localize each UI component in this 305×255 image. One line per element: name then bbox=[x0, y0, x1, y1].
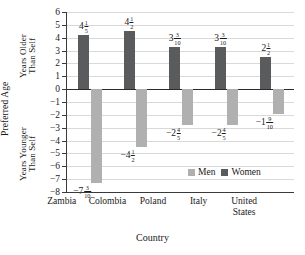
y-axis-tick bbox=[62, 166, 67, 167]
value-label-men: −1910 bbox=[256, 116, 274, 130]
value-label-women: 3310 bbox=[169, 32, 181, 46]
value-label-men: −412 bbox=[120, 149, 134, 163]
y-axis-tick-label: 3 bbox=[55, 46, 60, 56]
y-axis-tick bbox=[62, 76, 67, 77]
y-axis-tick bbox=[62, 179, 67, 180]
x-axis-line bbox=[66, 192, 294, 193]
gridline bbox=[67, 51, 294, 52]
y-axis-tick bbox=[62, 115, 67, 116]
legend-item-men: Men bbox=[188, 167, 215, 177]
y-axis-tick-label: 1 bbox=[55, 71, 60, 81]
y-axis-tick bbox=[62, 153, 67, 154]
bar-men bbox=[136, 89, 147, 147]
outer-y-axis-title: Preferred Age bbox=[1, 34, 11, 184]
y-axis-tick-label: −7 bbox=[50, 174, 60, 184]
bar-women bbox=[215, 47, 226, 89]
bar-women bbox=[260, 57, 271, 89]
y-axis-tick bbox=[62, 102, 67, 103]
y-axis-tick bbox=[62, 141, 67, 142]
bar-women bbox=[78, 35, 89, 89]
men-swatch-icon bbox=[188, 169, 195, 176]
value-label-women: 412 bbox=[125, 16, 134, 30]
value-label-women: 212 bbox=[261, 42, 270, 56]
y-axis-tick bbox=[62, 63, 67, 64]
y-axis-tick bbox=[62, 12, 67, 13]
y-axis-lower-label: Years Younger Than Self bbox=[19, 110, 38, 198]
y-axis-tick-label: −4 bbox=[50, 136, 60, 146]
y-axis-tick bbox=[62, 51, 67, 52]
bar-women bbox=[169, 47, 180, 89]
y-axis-tick-label: 4 bbox=[55, 33, 60, 43]
value-label-women: 415 bbox=[79, 20, 88, 34]
legend-label-women: Women bbox=[231, 167, 260, 177]
y-axis-tick-label: 2 bbox=[55, 58, 60, 68]
legend-item-women: Women bbox=[221, 167, 260, 177]
bar-men bbox=[91, 89, 102, 183]
gridline bbox=[67, 25, 294, 26]
bar-men bbox=[273, 89, 284, 113]
bar-men bbox=[182, 89, 193, 125]
legend: Men Women bbox=[188, 167, 261, 177]
women-swatch-icon bbox=[221, 169, 228, 176]
y-axis-tick bbox=[62, 128, 67, 129]
plot-area: 6543210−1−2−3−4−5−6−7−8415−7310412−41233… bbox=[66, 12, 294, 192]
y-axis-tick-label: −5 bbox=[50, 148, 60, 158]
y-axis-tick-label: 6 bbox=[55, 7, 60, 17]
value-label-men: −245 bbox=[166, 127, 180, 141]
y-axis-tick-label: −3 bbox=[50, 123, 60, 133]
value-label-men: −245 bbox=[212, 127, 226, 141]
y-axis-tick-label: −2 bbox=[50, 110, 60, 120]
bar-women bbox=[124, 31, 135, 89]
bar-men bbox=[227, 89, 238, 125]
y-axis-upper-label: Years Older Than Self bbox=[19, 14, 38, 98]
gridline bbox=[67, 12, 294, 13]
y-axis-tick bbox=[62, 38, 67, 39]
y-axis-tick-label: −6 bbox=[50, 161, 60, 171]
y-axis-tick bbox=[62, 25, 67, 26]
value-label-women: 3310 bbox=[214, 32, 226, 46]
bar-chart: Preferred Age Years Older Than Self Year… bbox=[0, 0, 305, 255]
x-axis-title: Country bbox=[0, 232, 305, 243]
plot-inner: 6543210−1−2−3−4−5−6−7−8415−7310412−41233… bbox=[67, 12, 294, 192]
x-axis-tick-label: United States bbox=[217, 196, 271, 217]
y-axis-tick-label: −1 bbox=[50, 97, 60, 107]
y-axis-tick-label: 0 bbox=[55, 84, 60, 94]
y-axis-tick-label: 5 bbox=[55, 20, 60, 30]
legend-label-men: Men bbox=[198, 167, 215, 177]
